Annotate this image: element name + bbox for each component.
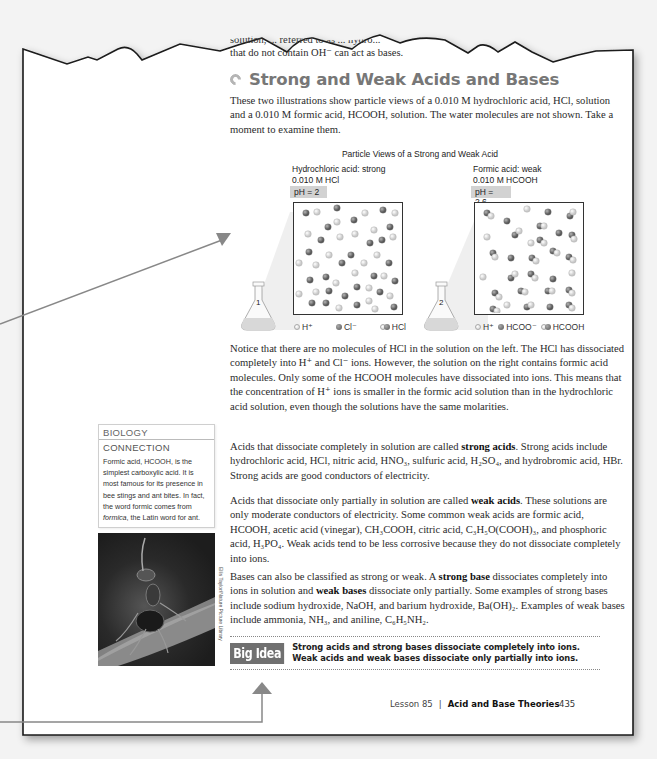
page-number: 435 <box>559 699 575 709</box>
big-idea-box: Big Idea Strong acids and strong bases d… <box>230 636 600 670</box>
h-ion-icon <box>294 324 300 330</box>
figure-title: Particle Views of a Strong and Weak Acid <box>230 149 610 159</box>
biology-connection-sidebar: BIOLOGY CONNECTION Formic acid, HCOOH, i… <box>98 424 215 528</box>
section-heading: Strong and Weak Acids and Bases <box>230 70 559 89</box>
legend-item-h-plus: H⁺ <box>294 322 313 332</box>
ph-badge-right: pH = 2.6 <box>471 186 511 198</box>
term-strong-acids: strong acids <box>461 441 515 452</box>
legend-item-cl-minus: Cl⁻ <box>336 322 357 332</box>
legend-item-hcooh: HCOOH <box>541 322 585 332</box>
page-footer: Lesson 85 | Acid and Base Theories 435 <box>390 699 559 709</box>
figure-right-label: Formic acid: weak 0.010 M HCOOH <box>473 164 542 186</box>
cl-ion-icon <box>336 324 342 330</box>
section-heading-text: Strong and Weak Acids and Bases <box>249 70 559 89</box>
big-idea-badge: Big Idea <box>230 643 284 664</box>
ph-badge-left: pH = 2 <box>290 186 327 198</box>
footer-lesson: Lesson 85 <box>390 699 433 709</box>
figure-right-concentration: 0.010 M HCOOH <box>473 175 542 186</box>
sidebar-body: Formic acid, HCOOH, is the simplest carb… <box>99 455 214 527</box>
particle-view-weak-acid <box>474 202 584 315</box>
figure-left-title: Hydrochloric acid: strong <box>292 164 386 175</box>
ant-photo <box>98 533 215 666</box>
paragraph-observation: Notice that there are no molecules of HC… <box>230 342 625 414</box>
particle-view-strong-acid <box>293 202 403 315</box>
legend-item-hcoo-minus: HCOO⁻ <box>498 322 537 332</box>
paragraph-intro: These two illustrations show particle vi… <box>230 94 625 137</box>
paragraph-strong-acids: Acids that dissociate completely in solu… <box>230 440 625 483</box>
legend-item-h-plus: H⁺ <box>475 322 494 332</box>
figure-left-label: Hydrochloric acid: strong 0.010 M HCl <box>292 164 386 186</box>
paragraph-weak-acids: Acids that dissociate only partially in … <box>230 494 625 566</box>
h-ion-icon <box>475 324 481 330</box>
figure-left-concentration: 0.010 M HCl <box>292 175 386 186</box>
term-weak-acids: weak acids <box>471 495 520 506</box>
big-idea-text: Strong acids and strong bases dissociate… <box>292 642 580 664</box>
paragraph-bases: Bases can also be classified as strong o… <box>230 570 625 628</box>
figure-right-title: Formic acid: weak <box>473 164 542 175</box>
sidebar-title-biology: BIOLOGY <box>99 425 214 440</box>
sidebar-title-connection: CONNECTION <box>99 440 214 455</box>
flask-2-number: 2 <box>439 298 444 307</box>
intro-tail-text: that do not contain OH⁻ can act as bases… <box>230 46 610 60</box>
legend-item-hcl: HCl <box>380 322 406 332</box>
particles-hcooh <box>475 203 582 313</box>
term-weak-bases: weak bases <box>316 585 366 596</box>
big-idea-line-2: Weak acids and weak bases dissociate onl… <box>292 653 580 664</box>
hcoo-ion-icon <box>498 324 504 330</box>
hcl-molecule-icon <box>380 324 390 330</box>
particles-hcl <box>294 203 401 313</box>
footer-separator: | <box>439 699 442 709</box>
term-strong-base: strong base <box>439 571 490 582</box>
flask-1-number: 1 <box>256 298 261 307</box>
legend-strong-acid: H⁺ Cl⁻ HCl <box>294 322 406 332</box>
footer-topic: Acid and Base Theories <box>448 699 560 709</box>
hcooh-molecule-icon <box>541 324 551 330</box>
big-idea-line-1: Strong acids and strong bases dissociate… <box>292 642 580 653</box>
ant-image-icon <box>98 533 215 666</box>
legend-weak-acid: H⁺ HCOO⁻ HCOOH <box>475 322 584 332</box>
photo-credit: Ellis Taylor/Nature Picture Library <box>218 540 224 668</box>
section-arrow-icon <box>228 72 244 88</box>
